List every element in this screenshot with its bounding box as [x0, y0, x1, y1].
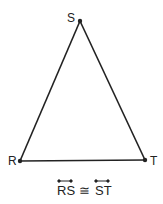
edge-st — [80, 21, 145, 160]
triangle-diagram: S R T RS ≅ ST — [0, 0, 163, 204]
vertex-t-point — [143, 158, 147, 162]
vertex-s-label: S — [67, 11, 75, 25]
edge-rt — [20, 160, 145, 161]
vertex-points — [18, 19, 147, 163]
line-symbol-rs — [58, 180, 72, 182]
triangle-edges — [20, 21, 145, 161]
line-symbol-st — [95, 180, 109, 182]
vertex-t-label: T — [150, 154, 158, 168]
caption-left-segment: RS — [57, 183, 75, 198]
vertex-r-point — [18, 159, 22, 163]
caption-right-segment: ST — [95, 183, 112, 198]
vertex-r-label: R — [8, 154, 17, 168]
congruence-caption: RS ≅ ST — [57, 180, 112, 198]
caption-congruent-symbol: ≅ — [79, 183, 90, 198]
vertex-s-point — [78, 19, 82, 23]
edge-rs — [20, 21, 80, 161]
